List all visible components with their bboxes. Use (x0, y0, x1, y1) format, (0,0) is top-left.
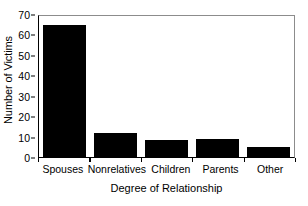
bar (196, 139, 239, 157)
x-axis-tick-labels: SpousesNonrelativesChildrenParentsOther (38, 162, 295, 178)
y-tick-label: 20 (18, 112, 30, 122)
y-tick-label: 30 (18, 92, 30, 102)
y-tick-mark (31, 76, 35, 77)
bar-cell (141, 16, 192, 157)
y-axis-title-text: Number of Victims (2, 36, 14, 124)
bar-cell (243, 16, 294, 157)
x-axis-title: Degree of Relationship (38, 182, 295, 194)
bar (145, 140, 188, 157)
y-tick-mark (31, 117, 35, 118)
x-tick-label: Children (146, 162, 196, 178)
y-tick-mark (31, 137, 35, 138)
y-tick-label: 50 (18, 51, 30, 61)
y-tick-mark (31, 15, 35, 16)
y-tick-mark (31, 35, 35, 36)
bar (43, 25, 86, 157)
x-tick-label: Spouses (38, 162, 88, 178)
y-axis-title: Number of Victims (0, 0, 16, 160)
plot-area (38, 15, 295, 158)
x-tick-label: Nonrelatives (88, 162, 146, 178)
bar-chart-figure: Number of Victims 010203040506070 Spouse… (0, 0, 308, 206)
bar (247, 147, 290, 157)
y-tick-label: 60 (18, 30, 30, 40)
bar (94, 133, 137, 157)
y-tick-label: 10 (18, 133, 30, 143)
y-axis-tick-labels: 010203040506070 (16, 10, 35, 162)
x-tick-label: Parents (196, 162, 246, 178)
y-tick-label: 40 (18, 71, 30, 81)
y-tick-mark (31, 96, 35, 97)
x-tick-label: Other (245, 162, 295, 178)
bar-cell (90, 16, 141, 157)
y-tick-mark (31, 158, 35, 159)
y-tick-label: 0 (24, 153, 30, 163)
bar-series (39, 16, 294, 157)
x-tick-mark (295, 158, 296, 162)
bar-cell (192, 16, 243, 157)
y-tick-label: 70 (18, 10, 30, 20)
y-tick-mark (31, 55, 35, 56)
bar-cell (39, 16, 90, 157)
